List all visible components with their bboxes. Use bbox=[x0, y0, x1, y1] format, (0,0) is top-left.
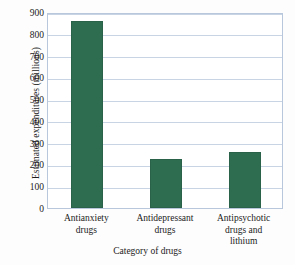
category-label: Antidepressant drugs bbox=[126, 213, 205, 236]
y-tick-label: 900 bbox=[4, 8, 44, 18]
y-tick-label: 500 bbox=[4, 95, 44, 105]
bar bbox=[229, 152, 261, 208]
y-tick-label: 300 bbox=[4, 139, 44, 149]
x-axis-title: Category of drugs bbox=[0, 246, 295, 256]
y-tick-label: 700 bbox=[4, 52, 44, 62]
bar bbox=[71, 21, 103, 208]
y-tick-label: 200 bbox=[4, 160, 44, 170]
bar-chart-figure: Estimated expenditures (millions) 010020… bbox=[0, 0, 295, 265]
y-tick-label: 400 bbox=[4, 117, 44, 127]
gridline bbox=[48, 14, 282, 15]
y-tick-label: 0 bbox=[4, 204, 44, 214]
bar bbox=[150, 159, 182, 208]
category-label: Antianxiety drugs bbox=[47, 213, 126, 236]
y-tick-label: 600 bbox=[4, 73, 44, 83]
y-tick-label: 800 bbox=[4, 30, 44, 40]
category-label: Antipsychotic drugs and lithium bbox=[204, 213, 283, 248]
y-tick-label: 100 bbox=[4, 182, 44, 192]
plot-area bbox=[47, 13, 283, 209]
